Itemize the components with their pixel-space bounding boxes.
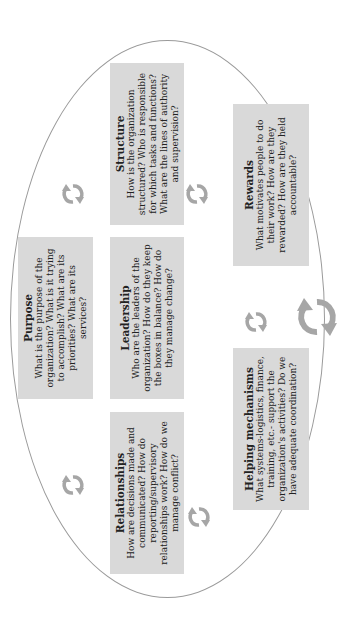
leadership-text: Who are the leaders of the organization?… [131,243,175,393]
cycle-arrows-icon [184,181,210,207]
helping-mechanisms-title: Helping mechanisms [243,354,255,504]
cycle-arrows-icon [243,309,269,335]
relationships-box: Relationships How are decisions made and… [110,412,184,574]
cycle-arrows-icon [186,504,212,530]
cycle-arrows-icon [60,472,86,498]
structure-title: Structure [114,69,126,219]
large-cycle-arrows-icon [294,294,340,340]
leadership-box: Leadership Who are the leaders of the or… [110,237,184,399]
relationships-text: How are decisions made and communicated?… [126,418,181,568]
structure-box: Structure How is the organization struct… [110,63,184,225]
rewards-box: Rewards What motivates people to do thei… [233,104,309,266]
leadership-title: Leadership [119,243,131,393]
relationships-title: Relationships [114,418,126,568]
purpose-box: Purpose What is the purpose of the organ… [18,237,93,399]
helping-mechanisms-box: Helping mechanisms What systems-logistic… [233,348,309,510]
purpose-text: What is the purpose of the organization?… [34,243,89,393]
helping-mechanisms-text: What systems-logistics, finance, trainin… [255,354,299,504]
rewards-text: What motivates people to do their work? … [255,110,299,260]
six-box-diagram: Purpose What is the purpose of the organ… [0,0,350,626]
purpose-title: Purpose [22,243,34,393]
rewards-title: Rewards [243,110,255,260]
structure-text: How is the organization structured? Who … [126,69,181,219]
cycle-arrows-icon [60,181,86,207]
